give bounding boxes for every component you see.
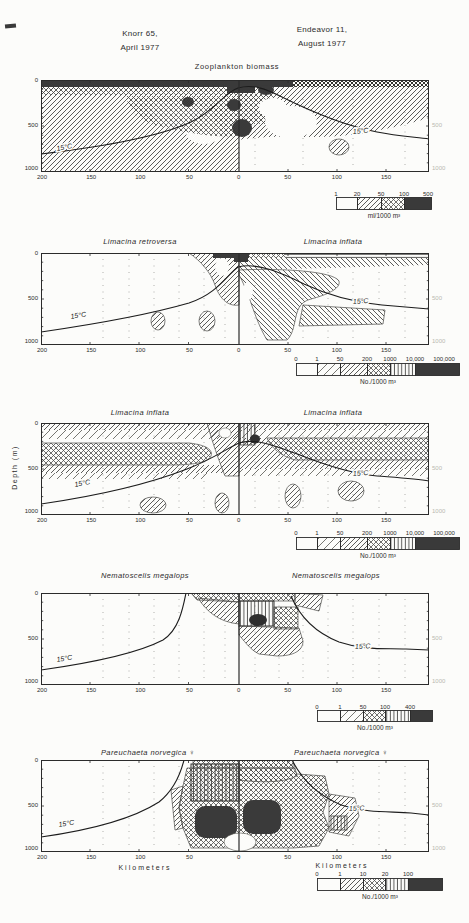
cruise-right-line2: August 1977: [272, 37, 372, 51]
x-tick-label: 0: [226, 517, 252, 523]
isotherm-label: 15°C: [349, 804, 366, 812]
y-tick-label: 0: [16, 757, 38, 763]
x-tick-row: 200 150 100 50 0 50 100 150: [29, 517, 399, 523]
y-tick-label: 1000: [16, 508, 38, 514]
legend-label: 200: [355, 356, 379, 362]
legend-unit: No./1000 m³: [317, 724, 433, 731]
legend-label: 1: [305, 356, 329, 362]
legend-label: 20: [373, 871, 397, 877]
y-tick-label-right: 500: [432, 295, 458, 301]
x-tick-label: 0: [226, 687, 252, 693]
panel4-plot: 15°C 15°C: [41, 593, 429, 685]
x-tick-label: 150: [78, 687, 104, 693]
y-tick-label: 0: [16, 250, 38, 256]
x-tick-label: 150: [78, 517, 104, 523]
legend-bar-pareuchaeta: [317, 878, 443, 891]
x-tick-label: 200: [29, 854, 55, 860]
y-tick-label: 0: [16, 77, 38, 83]
x-tick-label: 150: [78, 347, 104, 353]
x-tick-label: 50: [275, 347, 301, 353]
x-tick-label: 100: [127, 174, 153, 180]
isotherm-label: 15°C: [58, 818, 75, 828]
panel4-title-right: Nematoscelis megalops: [266, 571, 406, 580]
x-tick-label: 200: [29, 347, 55, 353]
panel1-contours: 15°C 15°C: [41, 80, 429, 172]
y-tick-label-right: 500: [432, 122, 458, 128]
legend-bar-nematoscelis: [317, 710, 433, 722]
x-tick-label: 50: [275, 687, 301, 693]
panel1-plot: 15°C 15°C: [41, 80, 429, 172]
y-tick-label-right: 1000: [432, 508, 458, 514]
x-tick-label: 200: [29, 687, 55, 693]
x-tick-label: 150: [373, 854, 399, 860]
x-tick-row: 200 150 100 50 0 50 100 150: [29, 687, 399, 693]
isotherm-label: 15°C: [353, 469, 370, 477]
legend-label: 50: [328, 356, 352, 362]
legend-unit: No./1000 m³: [317, 893, 443, 900]
y-tick-label-right: 500: [432, 635, 458, 641]
y-tick-label: 500: [16, 295, 38, 301]
cruise-right-line1: Endeavor 11,: [272, 23, 372, 37]
panel3-title-left: Limacina inflata: [70, 408, 210, 417]
legend-bar-limacina-1: [296, 363, 460, 376]
legend-label: 0: [305, 871, 329, 877]
y-tick-label: 500: [16, 802, 38, 808]
y-tick-label: 0: [16, 420, 38, 426]
y-tick-label: 0: [16, 590, 38, 596]
x-tick-row: 200 150 100 50 0 50 100 150: [29, 854, 399, 860]
x-tick-label: 100: [324, 347, 350, 353]
isotherm-label: 15°C: [352, 127, 369, 135]
legend-unit: No./1000 m³: [296, 378, 460, 385]
x-tick-label: 50: [176, 347, 202, 353]
panel1-title: Zooplankton biomass: [137, 62, 337, 71]
panel2-plot: 15°C 15°C: [41, 253, 429, 345]
panel5-title-right: Pareuchaeta norvegica ♀: [266, 748, 416, 757]
x-tick-label: 100: [127, 854, 153, 860]
x-tick-label: 100: [324, 687, 350, 693]
y-tick-label-right: 1000: [432, 165, 458, 171]
isotherm-label: 15°C: [353, 297, 370, 305]
y-tick-label-right: 500: [432, 465, 458, 471]
x-tick-label: 50: [176, 517, 202, 523]
x-tick-label: 50: [176, 687, 202, 693]
isotherm-label: 15°C: [70, 310, 88, 320]
x-tick-label: 200: [29, 174, 55, 180]
x-tick-label: 0: [226, 347, 252, 353]
x-tick-label: 50: [176, 854, 202, 860]
panel3-plot: 15°C 15°C: [41, 423, 429, 515]
legend-label: 10: [351, 871, 375, 877]
isotherm-label: 15°C: [74, 478, 92, 488]
y-tick-label: 1000: [16, 165, 38, 171]
x-tick-label: 50: [275, 854, 301, 860]
cruise-label-right: Endeavor 11, August 1977: [272, 23, 372, 51]
panel5-contours: 15°C 15°C: [41, 760, 429, 851]
panel5-plot: 15°C 15°C: [41, 760, 429, 852]
legend-unit: ml/1000 m³: [336, 212, 432, 219]
y-tick-label: 1000: [16, 845, 38, 851]
x-tick-label: 50: [176, 174, 202, 180]
x-tick-label: 100: [127, 517, 153, 523]
x-tick-label: 100: [324, 174, 350, 180]
figure-page: Knorr 65, April 1977 Endeavor 11, August…: [0, 0, 469, 923]
legend-label: 1: [328, 871, 352, 877]
panel3-title-right: Limacina inflata: [263, 408, 403, 417]
x-tick-label: 100: [324, 854, 350, 860]
x-tick-label: 0: [226, 854, 252, 860]
y-tick-label: 500: [16, 465, 38, 471]
y-tick-label-right: 1000: [432, 845, 458, 851]
x-tick-row: 200 150 100 50 0 50 100 150: [29, 174, 399, 180]
panel5-title-left: Pareuchaeta norvegica ♀: [73, 748, 223, 757]
y-tick-label: 1000: [16, 338, 38, 344]
legend-label: 50: [328, 530, 352, 536]
cruise-label-left: Knorr 65, April 1977: [92, 27, 188, 55]
legend-label: 100: [396, 871, 420, 877]
x-tick-label: 150: [78, 854, 104, 860]
panel4-contours: 15°C 15°C: [41, 593, 429, 679]
isotherm-label: 15°C: [56, 653, 73, 663]
scan-artifact: [5, 23, 16, 28]
y-tick-label-right: 1000: [432, 678, 458, 684]
y-tick-label: 500: [16, 122, 38, 128]
panel4-title-left: Nematoscelis megalops: [75, 571, 215, 580]
km-axis-label-left: Kilometers: [95, 864, 195, 871]
cruise-left-line1: Knorr 65,: [92, 27, 188, 41]
